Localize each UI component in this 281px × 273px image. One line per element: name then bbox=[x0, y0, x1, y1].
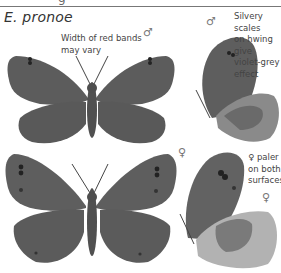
annotation-red-bands: Width of red bands may vary bbox=[61, 33, 142, 56]
female-upperside-illustration bbox=[6, 154, 177, 263]
annotation-female-paler: ♀ paler on both surfaces bbox=[248, 152, 281, 187]
male-symbol-upperside: ♂ bbox=[143, 26, 153, 39]
annotation-silvery-scales: Silvery scales on hwing give violet-grey… bbox=[234, 11, 281, 80]
female-symbol-upperside: ♀ bbox=[178, 146, 186, 159]
male-symbol-underside: ♂ bbox=[206, 15, 216, 28]
male-upperside-illustration bbox=[8, 56, 175, 143]
female-symbol-underside: ♀ bbox=[262, 191, 270, 204]
